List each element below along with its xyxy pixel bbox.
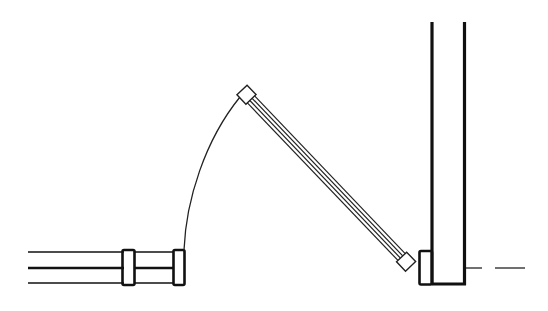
floor-plan-canvas xyxy=(0,0,548,311)
right-wall xyxy=(420,22,467,285)
jamb-block-right xyxy=(420,251,433,285)
jamb-block-left-2 xyxy=(174,250,185,285)
door-leaf xyxy=(237,85,416,271)
swing-arc xyxy=(184,97,240,250)
left-wall xyxy=(28,250,185,285)
jamb-block-left-1 xyxy=(123,250,135,285)
